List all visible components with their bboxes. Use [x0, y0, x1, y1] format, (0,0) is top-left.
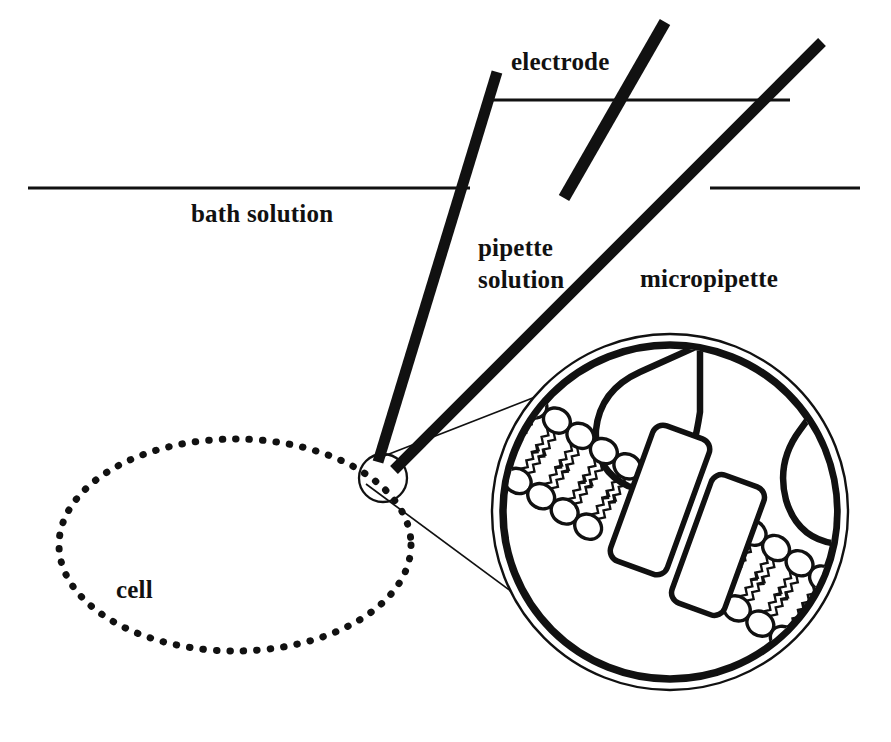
patch-clamp-figure: electrode bath solution pipette solution…	[0, 0, 891, 742]
patch-clamp-diagram: electrode bath solution pipette solution…	[0, 0, 891, 742]
electrode-label: electrode	[511, 48, 610, 75]
bath-solution-label: bath solution	[191, 200, 333, 227]
pipette-solution-label-line2: solution	[478, 266, 564, 293]
cell-membrane-outline	[59, 439, 411, 651]
micropipette-label: micropipette	[640, 265, 778, 292]
cell-label: cell	[116, 576, 153, 603]
pipette-solution-label-line1: pipette	[478, 234, 553, 261]
